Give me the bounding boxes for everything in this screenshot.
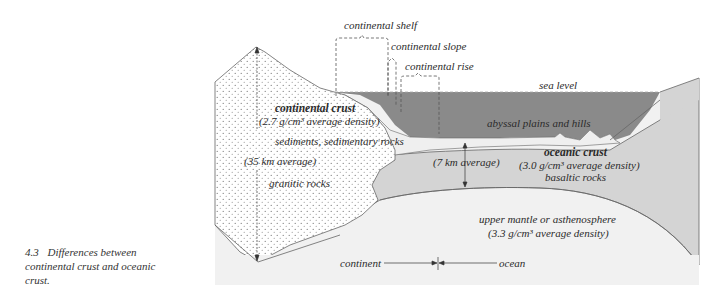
label-oceanic-thickness: (7 km average) xyxy=(433,157,500,168)
label-continental-slope: continental slope xyxy=(391,41,466,52)
label-ocean: ocean xyxy=(499,258,525,269)
label-continental-shelf: continental shelf xyxy=(344,20,417,31)
label-continental-density: (2.7 g/cm³ average density) xyxy=(259,116,380,127)
label-mantle-density: (3.3 g/cm³ average density) xyxy=(488,228,609,239)
label-continental-rise: continental rise xyxy=(405,61,474,72)
label-granitic-rocks: granitic rocks xyxy=(269,178,330,189)
continental-shelf-bracket xyxy=(336,35,388,96)
label-mantle: upper mantle or asthenosphere xyxy=(479,214,616,225)
caption-text: Differences between continental crust an… xyxy=(25,246,155,286)
label-sea-level: sea level xyxy=(539,80,577,91)
label-abyssal-plains: abyssal plains and hills xyxy=(487,118,591,129)
label-continent: continent xyxy=(340,258,381,269)
label-oceanic-crust: oceanic crust xyxy=(544,147,607,159)
label-basaltic-rocks: basaltic rocks xyxy=(545,172,606,183)
figure-caption: 4.3 Differences between continental crus… xyxy=(25,245,175,287)
label-continental-thickness: (35 km average) xyxy=(244,156,316,167)
label-sediments: sediments, sedimentary rocks xyxy=(275,136,404,147)
caption-number: 4.3 xyxy=(25,246,39,258)
label-continental-crust: continental crust xyxy=(275,103,355,115)
label-oceanic-density: (3.0 g/cm³ average density) xyxy=(519,160,640,171)
